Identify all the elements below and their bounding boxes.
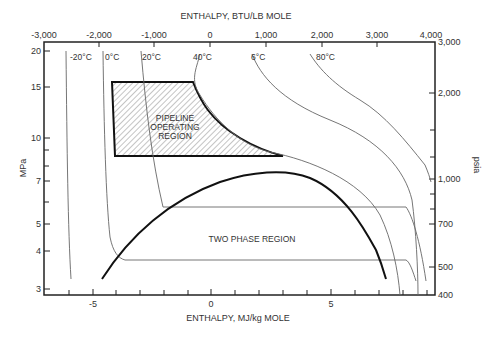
bottom-axis-ticks: -5 0 5	[89, 299, 334, 309]
left-axis-ticks: 20 15 10 7 5 4 3	[31, 46, 41, 294]
bottom-tick-label: 0	[208, 299, 213, 309]
right-tick-marks	[429, 93, 435, 267]
isotherm-label: 6°C	[251, 52, 265, 62]
top-tick-label: 3,000	[366, 30, 389, 40]
left-axis-title: MPa	[18, 159, 28, 178]
right-axis-ticks: 3,000 2,000 1,000 700 500 400	[438, 37, 461, 300]
top-tick-label: 0	[207, 30, 212, 40]
isotherm-labels: -20°C 0°C 20°C 40°C 6°C 80°C	[70, 52, 335, 62]
right-axis-title: psia	[472, 157, 482, 174]
plot-frame	[44, 42, 435, 295]
left-tick-label: 3	[36, 284, 41, 294]
isotherm-label: 80°C	[316, 52, 335, 62]
bottom-tick-label: 5	[328, 299, 333, 309]
right-tick-label: 3,000	[438, 37, 461, 47]
pipeline-operating-region	[112, 82, 283, 156]
top-axis-ticks: -3,000 -2,000 -1,000 0 1,000 2,000 3,000…	[31, 30, 442, 40]
isotherm-label: 40°C	[193, 52, 212, 62]
left-tick-label: 7	[36, 176, 41, 186]
top-tick-label: -3,000	[31, 30, 57, 40]
left-tick-label: 5	[36, 219, 41, 229]
left-tick-marks	[44, 51, 50, 289]
left-tick-label: 15	[31, 82, 41, 92]
left-tick-label: 10	[31, 133, 41, 143]
isotherm-label: -20°C	[70, 52, 92, 62]
top-tick-label: 1,000	[255, 30, 278, 40]
isotherm-80	[310, 54, 431, 182]
top-axis-title: ENTHALPY, BTU/LB MOLE	[181, 11, 292, 21]
top-tick-label: 2,000	[311, 30, 334, 40]
bottom-tick-label: -5	[89, 299, 97, 309]
two-phase-envelope	[102, 172, 386, 279]
two-phase-region-label: TWO PHASE REGION	[209, 234, 296, 244]
right-tick-label: 2,000	[438, 88, 461, 98]
right-tick-label: 400	[438, 290, 453, 300]
isotherm-label: 20°C	[142, 52, 161, 62]
isotherm-label: 0°C	[105, 52, 119, 62]
isotherm-minus20	[66, 51, 71, 279]
svg-text:REGION: REGION	[158, 131, 192, 141]
top-tick-label: -2,000	[86, 30, 112, 40]
bottom-tick-marks	[69, 289, 427, 295]
top-tick-label: -1,000	[141, 30, 167, 40]
left-tick-label: 20	[31, 46, 41, 56]
right-tick-label: 1,000	[438, 174, 461, 184]
bottom-axis-title: ENTHALPY, MJ/kg MOLE	[186, 313, 289, 323]
left-tick-label: 4	[36, 246, 41, 256]
enthalpy-pressure-chart: ENTHALPY, BTU/LB MOLE -3,000 -2,000 -1,0…	[0, 0, 483, 339]
right-tick-label: 700	[438, 219, 453, 229]
right-tick-label: 500	[438, 262, 453, 272]
